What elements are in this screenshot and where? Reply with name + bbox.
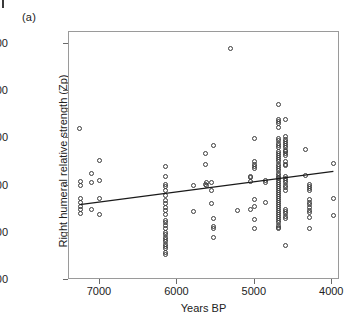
y-tick-label: 400 xyxy=(0,226,8,238)
y-tick-label: 200 xyxy=(0,273,8,285)
regression-line xyxy=(69,32,338,278)
x-tick-mark xyxy=(254,279,255,284)
y-tick-label: 800 xyxy=(0,131,8,143)
x-tick-label: 6000 xyxy=(164,285,188,297)
x-tick-label: 7000 xyxy=(87,285,111,297)
panel-label: (a) xyxy=(22,11,36,23)
y-tick-label: 600 xyxy=(0,179,8,191)
x-tick-label: 5000 xyxy=(242,285,266,297)
x-tick-mark xyxy=(99,279,100,284)
y-tick-label: 1000 xyxy=(0,84,8,96)
y-tick-mark xyxy=(63,279,68,280)
figure-panel-a: (a) Right humeral relative strength (Zp)… xyxy=(0,0,354,329)
page-edge-mark xyxy=(2,0,4,8)
plot-area xyxy=(68,31,339,279)
x-axis-title: Years BP xyxy=(68,302,339,314)
x-tick-label: 4000 xyxy=(319,285,343,297)
y-tick-label: 1200 xyxy=(0,37,8,49)
x-tick-mark xyxy=(331,279,332,284)
x-tick-mark xyxy=(176,279,177,284)
